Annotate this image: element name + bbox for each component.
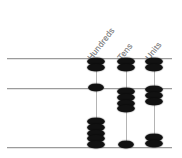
bead[interactable]: [119, 141, 134, 148]
bead[interactable]: [146, 140, 163, 147]
bead-stack-top-hundreds[interactable]: [88, 58, 105, 71]
bead-stack-top-units[interactable]: [146, 58, 163, 71]
bead-stack-middle-tens[interactable]: [118, 88, 135, 112]
bead-stack-bottom-tens[interactable]: [119, 141, 134, 148]
bead-stack-middle-units[interactable]: [146, 86, 163, 105]
bead-stack-bottom-units[interactable]: [146, 134, 163, 147]
abacus-diagram: Hundreds Tens Units: [0, 0, 182, 158]
bead[interactable]: [118, 105, 135, 112]
bead[interactable]: [88, 141, 105, 148]
column-label-hundreds: Hundreds: [85, 26, 117, 62]
bead[interactable]: [118, 64, 135, 71]
bead[interactable]: [88, 64, 105, 71]
bead[interactable]: [89, 84, 104, 91]
bead-stack-top-tens[interactable]: [118, 58, 135, 71]
bead[interactable]: [146, 98, 163, 105]
bead-stack-middle-hundreds[interactable]: [89, 84, 104, 91]
bead-stack-bottom-hundreds[interactable]: [88, 118, 105, 148]
bead[interactable]: [146, 64, 163, 71]
